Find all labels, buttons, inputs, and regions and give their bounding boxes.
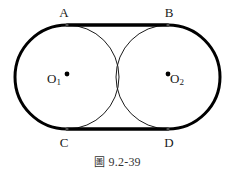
vertex-label-b: B	[161, 6, 177, 19]
vertex-label-a: A	[56, 6, 72, 19]
center-label-o1-subscript: 1	[56, 77, 61, 87]
center-label-o2-letter: O	[170, 71, 179, 86]
center-label-o2: O2	[170, 72, 184, 89]
center-label-o1-letter: O	[47, 71, 56, 86]
figure-svg	[0, 0, 235, 176]
point-b-marker	[166, 23, 169, 26]
center-dot-o1	[65, 72, 70, 77]
vertex-label-c: C	[56, 136, 72, 149]
figure-caption-cjk: 圖	[94, 156, 105, 169]
point-d-marker	[166, 127, 169, 130]
geometry-figure: A B C D O1 O2 圖 9.2-39	[0, 0, 235, 176]
point-a-marker	[65, 23, 68, 26]
center-label-o2-subscript: 2	[179, 77, 184, 87]
stadium-outline	[15, 25, 220, 129]
figure-caption-number: 9.2-39	[109, 155, 141, 169]
center-label-o1: O1	[47, 72, 61, 89]
point-c-marker	[65, 127, 68, 130]
vertex-label-d: D	[161, 136, 177, 149]
figure-caption: 圖 9.2-39	[0, 155, 235, 170]
